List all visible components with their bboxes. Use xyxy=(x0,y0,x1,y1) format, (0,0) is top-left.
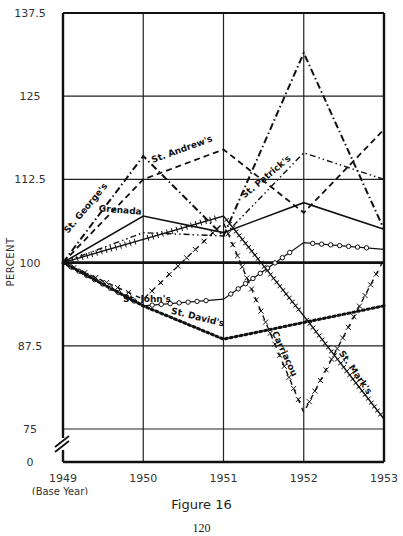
x-tick-label: 1951 xyxy=(210,472,238,485)
y-tick-label: 125 xyxy=(20,90,41,103)
y-axis-label: PERCENT xyxy=(5,237,16,287)
x-tick-label: 1953 xyxy=(370,472,398,485)
series-label: St. Andrew's xyxy=(150,134,214,165)
series-label: St. Patrick's xyxy=(239,153,292,200)
y-tick-label: 0 xyxy=(27,456,34,469)
x-tick-label: 1952 xyxy=(290,472,318,485)
series-label: St. Mark's xyxy=(337,349,374,396)
x-tick-label: 1950 xyxy=(129,472,157,485)
series-label: St. David's xyxy=(170,306,225,329)
series-label: St. John's xyxy=(123,294,171,304)
base-year-label: (Base Year) xyxy=(32,486,89,495)
x-tick-label: 1949 xyxy=(49,472,77,485)
y-tick-label: 87.5 xyxy=(18,340,43,353)
line-chart: 137.5125112.510087.5750PERCENT1949195019… xyxy=(0,0,403,495)
series-label: Grenada xyxy=(98,203,142,217)
page-number: 120 xyxy=(0,521,403,536)
y-tick-label: 75 xyxy=(23,423,37,436)
axis-break-icon xyxy=(55,436,69,452)
figure-caption: Figure 16 xyxy=(0,497,403,512)
y-tick-label: 112.5 xyxy=(14,173,46,186)
series-label: Carriacou xyxy=(270,330,300,378)
y-tick-label: 137.5 xyxy=(14,7,46,20)
y-tick-label: 100 xyxy=(20,257,41,270)
series-labels: GrenadaSt. George'sSt. Andrew'sSt. Patri… xyxy=(62,134,374,396)
grid xyxy=(63,13,384,462)
